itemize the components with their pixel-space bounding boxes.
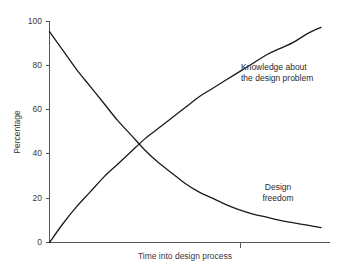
series-annotation-design-freedom: Design freedom <box>252 182 304 204</box>
series-line-knowledge <box>50 27 322 242</box>
y-axis-title: Percentage <box>12 100 22 164</box>
annotation-knowledge-line-2: the design problem <box>241 73 313 84</box>
annotation-freedom-line-1: Design <box>252 182 304 193</box>
y-axis-ticks <box>46 22 50 243</box>
y-tick-label-100: 100 <box>18 17 42 26</box>
x-axis-title: Time into design process <box>49 251 321 261</box>
y-tick-label-0: 0 <box>18 238 42 247</box>
chart-plot-area <box>0 0 337 272</box>
annotation-freedom-line-2: freedom <box>252 193 304 204</box>
annotation-knowledge-line-1: Knowledge about <box>241 62 313 73</box>
y-tick-label-80: 80 <box>18 61 42 70</box>
series-annotation-knowledge: Knowledge about the design problem <box>241 62 313 84</box>
y-tick-label-20: 20 <box>18 194 42 203</box>
chart-figure: 100 80 60 40 20 0 Percentage Time into d… <box>0 0 337 272</box>
